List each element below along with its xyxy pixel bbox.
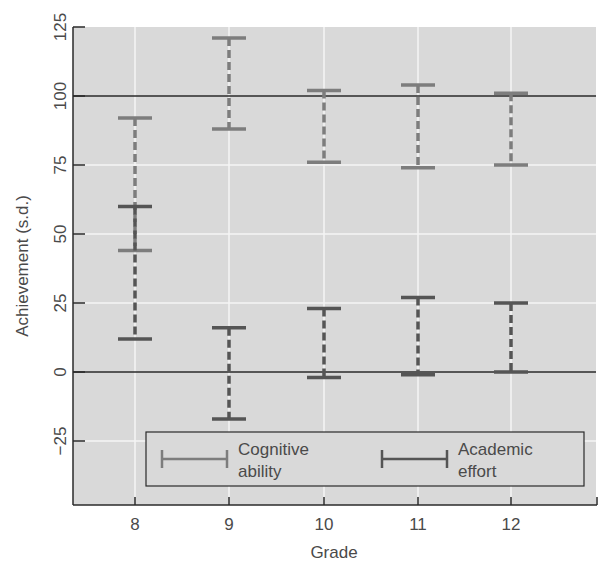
x-tick-label: 11 (409, 515, 427, 534)
legend-effort-label-2: effort (458, 462, 497, 481)
legend-effort-label-1: Academic (458, 440, 533, 459)
legend: Cognitive ability Academic effort (146, 432, 584, 486)
y-tick-label: 25 (51, 294, 70, 313)
y-tick-label: 0 (51, 367, 70, 376)
y-tick-label: 100 (51, 82, 70, 110)
chart-svg: 1251007550250−25 89101112 Grade Achievem… (0, 0, 609, 576)
y-tick-label: 50 (51, 225, 70, 244)
x-tick-label: 9 (224, 515, 233, 534)
x-tick-label: 8 (130, 515, 139, 534)
legend-cognitive-label-1: Cognitive (238, 440, 309, 459)
x-axis-title: Grade (310, 543, 357, 562)
x-tick-label: 12 (502, 515, 521, 534)
legend-cognitive-label-2: ability (238, 462, 282, 481)
x-tick-label: 10 (315, 515, 334, 534)
y-axis-title: Achievement (s.d.) (13, 195, 32, 337)
y-tick-label: 125 (51, 13, 70, 41)
y-tick-label: 75 (51, 156, 70, 175)
y-tick-label: −25 (51, 427, 70, 456)
